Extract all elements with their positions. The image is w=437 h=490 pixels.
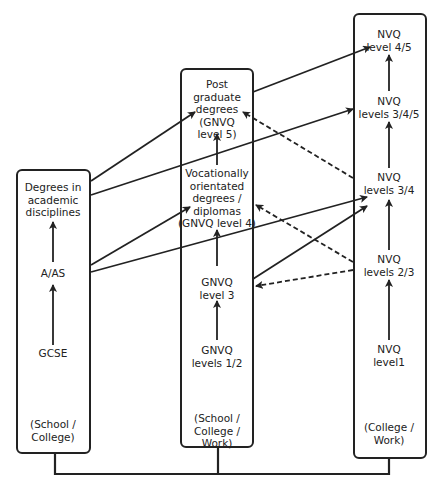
node-a-as: A/AS <box>41 267 66 280</box>
node-postgrad: Postgraduatedegrees(GNVQlevel 5) <box>193 78 241 141</box>
dashed-arrow-nvq23-to-gnvq3 <box>256 270 353 286</box>
node-nvq1: NVQlevel1 <box>373 343 405 368</box>
node-nvq23: NVQlevels 2/3 <box>364 253 415 278</box>
node-gnvq12: GNVQlevels 1/2 <box>192 344 243 369</box>
setting-right: (College /Work) <box>364 421 414 446</box>
node-vocational: Vocationallyorientateddegrees /diplomas(… <box>178 167 256 230</box>
node-nvq345: NVQlevels 3/4/5 <box>359 95 420 120</box>
node-gcse: GCSE <box>39 347 68 360</box>
dashed-arrow-nvq34-to-postgrad <box>243 112 353 178</box>
setting-left: (School /College) <box>30 418 76 443</box>
arrow-aas-to-vocational <box>91 207 190 265</box>
node-gnvq3: GNVQlevel 3 <box>200 276 235 301</box>
node-nvq34: NVQlevels 3/4 <box>364 171 415 196</box>
node-degrees-academic: Degrees inacademicdisciplines <box>25 181 82 219</box>
nvq-column-box <box>353 13 427 459</box>
setting-middle: (School /College /Work) <box>194 412 240 450</box>
arrow-gnvq3-to-nvq34 <box>253 206 367 279</box>
node-nvq45: NVQlevel 4/5 <box>366 28 411 53</box>
bottom-connector <box>55 454 389 474</box>
